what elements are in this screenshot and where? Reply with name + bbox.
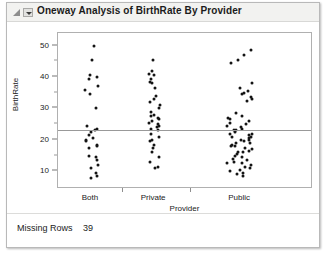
data-point <box>250 98 253 101</box>
missing-rows-value: 39 <box>83 223 93 233</box>
x-tick-label: Public <box>228 193 250 202</box>
data-point <box>247 120 250 123</box>
data-point <box>87 146 90 149</box>
data-point <box>240 156 243 159</box>
chevron-down-icon <box>26 12 32 15</box>
data-point <box>152 113 155 116</box>
x-tick-separator <box>190 188 191 192</box>
data-point <box>153 87 156 90</box>
y-tick-label: 10 <box>40 166 49 175</box>
data-point <box>246 99 249 102</box>
data-point <box>243 140 246 143</box>
data-point <box>87 154 90 157</box>
data-point <box>235 173 238 176</box>
data-point <box>228 121 231 124</box>
data-point <box>234 112 237 115</box>
data-point <box>238 87 241 90</box>
data-point <box>89 167 92 170</box>
y-axis-title: BirthRate <box>11 65 20 125</box>
y-tick-label: 50 <box>40 40 49 49</box>
data-point <box>244 165 247 168</box>
data-point <box>96 159 99 162</box>
data-point <box>95 107 98 110</box>
data-point <box>84 140 87 143</box>
data-point <box>88 77 91 80</box>
data-point <box>152 146 155 149</box>
data-point <box>157 156 160 159</box>
data-point <box>244 123 247 126</box>
data-point <box>229 145 232 148</box>
y-tick-label: 20 <box>40 134 49 143</box>
data-point <box>250 49 253 52</box>
plot-panel: 1020304050 BirthRate BothPrivatePublic P… <box>7 22 319 214</box>
data-point <box>241 151 244 154</box>
missing-rows-label: Missing Rows <box>17 223 73 233</box>
data-point <box>236 58 239 61</box>
data-point <box>96 164 99 167</box>
data-point <box>248 142 251 145</box>
data-point <box>230 61 233 64</box>
data-point <box>226 124 229 127</box>
footer-status-bar: Missing Rows 39 <box>7 213 319 247</box>
grand-mean-line <box>58 130 311 131</box>
data-point <box>96 175 99 178</box>
data-point <box>151 120 154 123</box>
data-point <box>149 101 152 104</box>
data-point <box>247 90 250 93</box>
data-point <box>226 162 229 165</box>
x-axis-title: Provider <box>57 204 312 213</box>
x-tick-separator <box>122 188 123 192</box>
data-point <box>148 72 151 75</box>
data-point <box>84 88 87 91</box>
data-point <box>150 132 153 135</box>
window-titlebar: Oneway Analysis of BirthRate By Provider <box>7 3 319 22</box>
data-point <box>149 115 152 118</box>
data-point <box>89 93 92 96</box>
data-point <box>86 124 89 127</box>
data-point <box>89 176 92 179</box>
data-point <box>157 135 160 138</box>
data-point <box>152 98 155 101</box>
data-point <box>95 145 98 148</box>
data-point <box>95 76 98 79</box>
data-point <box>152 74 155 77</box>
data-point <box>248 149 251 152</box>
data-point <box>228 170 231 173</box>
data-point <box>150 151 153 154</box>
data-point <box>92 137 95 140</box>
data-point <box>240 93 243 96</box>
data-point <box>246 159 249 162</box>
page-title: Oneway Analysis of BirthRate By Provider <box>37 5 242 16</box>
data-point <box>90 58 93 61</box>
data-point <box>150 69 153 72</box>
y-tick-label: 40 <box>40 72 49 81</box>
triangle-disclosure-icon[interactable] <box>13 9 20 16</box>
data-point <box>96 85 99 88</box>
data-point <box>233 160 236 163</box>
data-point <box>157 107 160 110</box>
data-point <box>147 121 150 124</box>
data-point <box>230 135 233 138</box>
x-tick-label: Both <box>82 193 98 202</box>
data-point <box>152 58 155 61</box>
x-tick-label: Private <box>141 193 166 202</box>
data-point <box>93 44 96 47</box>
data-point <box>244 146 247 149</box>
data-point <box>157 118 160 121</box>
data-point <box>243 54 246 57</box>
data-point <box>153 167 156 170</box>
y-tick-label: 30 <box>40 103 49 112</box>
scatter-plot-area[interactable] <box>57 32 312 188</box>
data-point <box>234 154 237 157</box>
data-point <box>148 160 151 163</box>
data-point <box>249 167 252 170</box>
data-point <box>242 175 245 178</box>
analysis-window: Oneway Analysis of BirthRate By Provider… <box>6 2 320 248</box>
data-point <box>240 115 243 118</box>
data-point <box>250 82 253 85</box>
data-point <box>157 165 160 168</box>
data-point <box>151 82 154 85</box>
data-point <box>149 140 152 143</box>
data-point <box>233 145 236 148</box>
red-triangle-menu-icon[interactable] <box>23 8 33 17</box>
